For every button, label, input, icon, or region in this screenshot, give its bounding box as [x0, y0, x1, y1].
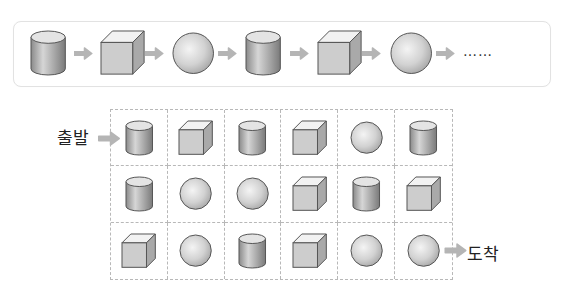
- maze-cell-sphere[interactable]: [168, 166, 225, 222]
- maze-cell-cylinder[interactable]: [111, 166, 168, 222]
- arrow-right-icon: [218, 47, 237, 60]
- cylinder-icon: [409, 120, 438, 156]
- cube-icon: [292, 120, 327, 155]
- sphere-icon: [407, 234, 440, 267]
- maze-cell-sphere[interactable]: [338, 223, 395, 279]
- sequence-shape-sphere: [172, 32, 214, 74]
- cylinder-icon: [125, 176, 154, 212]
- sphere-icon: [236, 177, 269, 210]
- maze-cell-cylinder[interactable]: [225, 223, 282, 279]
- cube-icon: [121, 233, 156, 268]
- maze-cell-cube[interactable]: [281, 166, 338, 222]
- maze-cell-cube[interactable]: [395, 166, 452, 222]
- maze-cell-sphere[interactable]: [225, 166, 282, 222]
- cylinder-icon: [352, 176, 381, 212]
- sequence-shape-cylinder: [30, 30, 66, 76]
- continuation-dots: ……: [463, 43, 493, 59]
- end-label: 도착: [467, 240, 498, 265]
- start-arrow-icon: [96, 131, 123, 146]
- sphere-icon: [350, 234, 383, 267]
- maze-cell-cube[interactable]: [168, 110, 225, 166]
- arrow-right-icon: [74, 47, 93, 60]
- arrow-right-icon: [436, 47, 455, 60]
- sequence-shape-cube: [317, 30, 362, 75]
- arrow-right-icon: [145, 47, 164, 60]
- sphere-icon: [179, 234, 212, 267]
- maze-cell-cube[interactable]: [281, 223, 338, 279]
- sequence-shape-cube: [100, 30, 145, 75]
- arrow-right-icon: [362, 47, 381, 60]
- sphere-icon: [179, 177, 212, 210]
- cube-icon: [292, 176, 327, 211]
- arrow-right-icon: [290, 47, 309, 60]
- maze-cell-cube[interactable]: [281, 110, 338, 166]
- end-arrow-icon: [444, 243, 468, 258]
- cylinder-icon: [238, 120, 267, 156]
- maze-cell-sphere[interactable]: [338, 110, 395, 166]
- shape-maze-grid: [110, 109, 453, 280]
- cube-icon: [406, 176, 441, 211]
- maze-cell-cylinder[interactable]: [395, 110, 452, 166]
- maze-cell-cube[interactable]: [111, 223, 168, 279]
- start-label: 출발: [57, 124, 88, 149]
- sequence-shape-cylinder: [245, 30, 281, 76]
- maze-cell-sphere[interactable]: [168, 223, 225, 279]
- cube-icon: [178, 120, 213, 155]
- cube-icon: [292, 233, 327, 268]
- cylinder-icon: [125, 120, 154, 156]
- cylinder-icon: [238, 233, 267, 269]
- sphere-icon: [350, 121, 383, 154]
- maze-cell-cylinder[interactable]: [225, 110, 282, 166]
- maze-cell-cylinder[interactable]: [338, 166, 395, 222]
- sequence-shape-sphere: [390, 32, 432, 74]
